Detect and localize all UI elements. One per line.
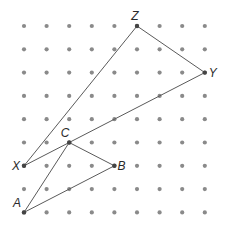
vertex-z bbox=[135, 24, 139, 28]
grid-dot bbox=[67, 47, 71, 51]
vertex-x bbox=[22, 164, 26, 168]
grid-dot bbox=[158, 71, 162, 75]
vertex-labels: ZYXCBA bbox=[11, 9, 218, 210]
grid-dot bbox=[158, 47, 162, 51]
grid-dot bbox=[45, 187, 49, 191]
grid-dot bbox=[135, 140, 139, 144]
grid-dot bbox=[90, 187, 94, 191]
label-b: B bbox=[117, 159, 125, 173]
grid-dot bbox=[112, 140, 116, 144]
grid-dot bbox=[158, 117, 162, 121]
grid-dot bbox=[203, 47, 207, 51]
grid-dot bbox=[45, 164, 49, 168]
grid-dot bbox=[22, 187, 26, 191]
grid-dot bbox=[180, 164, 184, 168]
geometry-diagram: ZYXCBA bbox=[0, 0, 226, 229]
grid-dot bbox=[135, 210, 139, 214]
grid-dot bbox=[45, 210, 49, 214]
grid-dot bbox=[203, 210, 207, 214]
grid-dot bbox=[45, 47, 49, 51]
grid-dot bbox=[158, 187, 162, 191]
grid-dot bbox=[22, 94, 26, 98]
vertex-a bbox=[22, 210, 26, 214]
grid-dot bbox=[135, 94, 139, 98]
vertex-c bbox=[67, 140, 71, 144]
grid-dot bbox=[22, 71, 26, 75]
grid-dot bbox=[22, 24, 26, 28]
grid-dot bbox=[90, 24, 94, 28]
grid-dot bbox=[203, 140, 207, 144]
grid-dot bbox=[90, 117, 94, 121]
grid-dot bbox=[203, 117, 207, 121]
grid-dot bbox=[180, 117, 184, 121]
label-c: C bbox=[61, 126, 70, 140]
grid-dot bbox=[67, 164, 71, 168]
grid-dot bbox=[112, 187, 116, 191]
grid-dot bbox=[158, 164, 162, 168]
triangle-lines bbox=[24, 26, 205, 212]
vertex-b bbox=[112, 164, 116, 168]
grid-dot bbox=[112, 71, 116, 75]
grid-dot bbox=[135, 187, 139, 191]
grid-dot bbox=[203, 187, 207, 191]
grid-dot bbox=[158, 140, 162, 144]
triangle-abc bbox=[24, 143, 114, 213]
label-y: Y bbox=[209, 66, 218, 80]
label-x: X bbox=[11, 159, 21, 173]
grid-dot bbox=[67, 210, 71, 214]
grid-dot bbox=[158, 24, 162, 28]
grid-dot bbox=[180, 187, 184, 191]
grid-dot bbox=[180, 140, 184, 144]
grid-dot bbox=[67, 94, 71, 98]
grid-dot bbox=[180, 47, 184, 51]
grid-dot bbox=[203, 94, 207, 98]
grid-dot bbox=[67, 71, 71, 75]
grid-dot bbox=[45, 71, 49, 75]
grid-dot bbox=[180, 24, 184, 28]
grid-dot bbox=[180, 71, 184, 75]
grid-dot bbox=[112, 47, 116, 51]
grid-dot bbox=[45, 94, 49, 98]
label-a: A bbox=[12, 196, 21, 210]
grid-dot bbox=[45, 140, 49, 144]
grid-dot bbox=[135, 47, 139, 51]
grid-dot bbox=[90, 71, 94, 75]
grid-dot bbox=[90, 140, 94, 144]
grid-dot bbox=[203, 24, 207, 28]
grid-dot bbox=[112, 210, 116, 214]
grid-dot bbox=[45, 117, 49, 121]
grid-dot bbox=[22, 117, 26, 121]
grid-dot bbox=[90, 210, 94, 214]
grid-dot bbox=[112, 94, 116, 98]
grid-dot bbox=[90, 164, 94, 168]
grid-dot bbox=[90, 94, 94, 98]
grid-dot bbox=[22, 140, 26, 144]
grid-dot bbox=[135, 164, 139, 168]
grid-dot bbox=[180, 210, 184, 214]
grid-dot bbox=[180, 94, 184, 98]
grid-dot bbox=[90, 47, 94, 51]
grid-dot bbox=[203, 164, 207, 168]
grid-dot bbox=[45, 24, 49, 28]
grid-dot bbox=[67, 24, 71, 28]
grid-dot bbox=[158, 210, 162, 214]
vertex-y bbox=[203, 70, 207, 74]
grid-dot bbox=[22, 47, 26, 51]
grid-dot bbox=[135, 117, 139, 121]
grid-dot bbox=[112, 24, 116, 28]
label-z: Z bbox=[130, 9, 139, 23]
grid-dot bbox=[67, 117, 71, 121]
grid-dot bbox=[135, 71, 139, 75]
